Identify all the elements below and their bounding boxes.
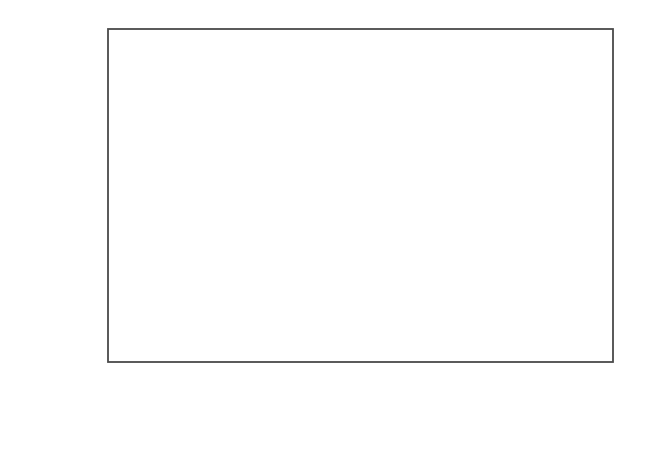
plot-frame: [108, 29, 613, 362]
chart-figure: [0, 0, 659, 463]
axis-frame: [108, 29, 613, 362]
plot-area: [0, 0, 659, 463]
